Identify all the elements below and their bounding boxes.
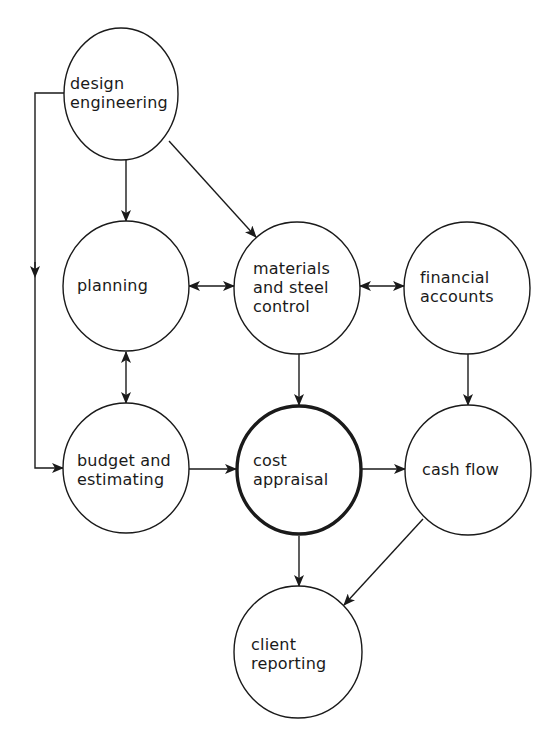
edge-design-to-budget bbox=[35, 93, 64, 270]
label-planning: planning bbox=[77, 276, 148, 295]
edge-design-to-budget-tail bbox=[35, 270, 63, 468]
label-client-reporting: client reporting bbox=[251, 635, 326, 673]
label-cash-flow: cash flow bbox=[422, 460, 499, 479]
label-financial-accounts: financial accounts bbox=[420, 268, 494, 306]
edge-design-to-materials bbox=[169, 141, 256, 237]
label-budget-and-estimating: budget and estimating bbox=[77, 451, 171, 489]
edge-cashflow-to-client bbox=[344, 519, 423, 605]
label-materials-and-steel-control: materials and steel control bbox=[253, 259, 330, 316]
label-cost-appraisal: cost appraisal bbox=[253, 451, 328, 489]
label-design-engineering: design engineering bbox=[70, 74, 168, 112]
